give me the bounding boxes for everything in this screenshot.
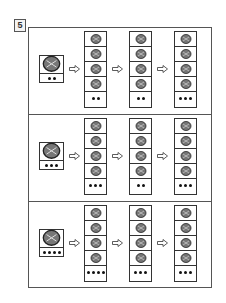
dot <box>184 271 187 274</box>
dot <box>94 184 97 187</box>
picture-cell <box>175 47 196 62</box>
strawberry-icon <box>134 207 148 219</box>
dot <box>97 271 100 274</box>
exercise-frame <box>28 27 212 288</box>
syllable-dots <box>175 266 196 278</box>
start-card <box>39 55 64 83</box>
dot <box>102 271 105 274</box>
syllable-dots <box>85 266 106 278</box>
picture-cell <box>130 134 151 149</box>
dot <box>43 251 46 254</box>
picture-cell <box>175 32 196 47</box>
picture-cell <box>175 251 196 266</box>
cat-icon <box>134 120 148 132</box>
dot <box>142 97 145 100</box>
exercise-number: 5 <box>14 19 26 32</box>
arrow-right-icon <box>157 65 168 73</box>
slippers-icon <box>134 165 148 177</box>
melon-icon <box>179 48 193 60</box>
arrow-right-icon <box>112 65 123 73</box>
picture-cell <box>130 206 151 221</box>
berries-icon <box>134 135 148 147</box>
syllable-dots <box>130 92 151 104</box>
word-column-3 <box>174 118 197 195</box>
syllable-dots <box>175 92 196 104</box>
necklace-icon <box>134 63 148 75</box>
picture-cell <box>130 119 151 134</box>
arrow-right-icon <box>112 152 123 160</box>
picture-cell <box>175 62 196 77</box>
tomato-icon <box>89 120 103 132</box>
rose-icon <box>89 150 103 162</box>
wreath-icon <box>89 207 103 219</box>
picture-cell <box>175 149 196 164</box>
dot <box>45 164 48 167</box>
dot <box>144 271 147 274</box>
dot <box>97 97 100 100</box>
wreath-icon <box>134 150 148 162</box>
syllable-dots <box>130 266 151 278</box>
word-column-2 <box>129 205 152 282</box>
cabbage-icon <box>89 63 103 75</box>
picture-cell <box>130 47 151 62</box>
dot <box>48 77 51 80</box>
picture-cell <box>175 221 196 236</box>
arrow-right-icon <box>69 239 80 247</box>
picture-cell <box>85 164 106 179</box>
picture-cell <box>85 206 106 221</box>
word-column-2 <box>129 31 152 108</box>
start-card <box>39 229 64 257</box>
picture-cell <box>85 134 106 149</box>
syllable-dots <box>85 92 106 104</box>
giraffe-icon <box>89 165 103 177</box>
picture-cell <box>85 62 106 77</box>
teapot-icon <box>179 63 193 75</box>
dot <box>48 251 51 254</box>
syllable-dots <box>40 161 63 170</box>
ball-icon <box>134 78 148 90</box>
dot <box>142 184 145 187</box>
rabbit-icon <box>89 48 103 60</box>
dot <box>50 164 53 167</box>
picture-cell <box>85 77 106 92</box>
word-column-1 <box>84 205 107 282</box>
dot <box>55 164 58 167</box>
dot <box>137 97 140 100</box>
ball-icon <box>134 252 148 264</box>
dot <box>58 251 61 254</box>
dot <box>179 184 182 187</box>
squirrel-icon <box>134 237 148 249</box>
dot <box>53 251 56 254</box>
arrow-right-icon <box>157 239 168 247</box>
panel-2 <box>29 114 211 201</box>
sewing-machine-icon <box>179 165 193 177</box>
picture-cell <box>175 206 196 221</box>
panel-1 <box>29 28 211 114</box>
picture-cell <box>130 62 151 77</box>
pheasant-icon <box>134 48 148 60</box>
syllable-dots <box>40 248 63 257</box>
syllable-dots <box>85 179 106 191</box>
picture-cell <box>85 119 106 134</box>
picture-cell <box>130 236 151 251</box>
elephant-icon <box>179 237 193 249</box>
basket-icon <box>134 222 148 234</box>
dot <box>179 271 182 274</box>
parrot-icon <box>179 207 193 219</box>
dot <box>134 271 137 274</box>
picture-cell <box>130 164 151 179</box>
dot <box>92 271 95 274</box>
flower-icon <box>179 120 193 132</box>
pumpkin-icon <box>89 78 103 90</box>
deer-icon <box>179 78 193 90</box>
word-column-1 <box>84 118 107 195</box>
syllable-dots <box>175 179 196 191</box>
word-column-1 <box>84 31 107 108</box>
picture-cell <box>175 164 196 179</box>
elk-icon <box>89 252 103 264</box>
picture-cell <box>85 32 106 47</box>
beaver-icon <box>40 141 63 161</box>
umbrella-icon <box>179 252 193 264</box>
bird-icon <box>40 54 63 74</box>
ant-icon <box>89 222 103 234</box>
